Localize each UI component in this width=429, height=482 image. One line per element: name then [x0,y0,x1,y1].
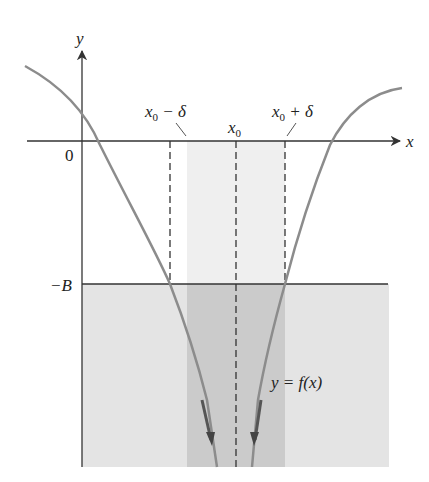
right-delta-label: x0 + δ [271,102,314,123]
left-delta-label: x0 − δ [144,102,187,123]
limit-diagram: y x 0 −B x0 − δ x0 x0 + δ y = f(x) [0,0,429,482]
function-label: y = f(x) [269,373,322,392]
y-axis-label: y [74,29,84,48]
left-delta-leader [176,123,186,136]
x-axis-label: x [405,132,414,151]
origin-label: 0 [65,146,74,165]
center-label: x0 [227,118,242,139]
right-delta-leader [287,123,296,136]
bound-label: −B [50,276,72,295]
